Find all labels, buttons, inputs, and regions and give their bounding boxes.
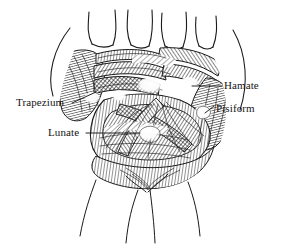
wrist-anatomy-drawing — [0, 0, 281, 245]
wrist-anatomy-figure: Trapezium Lunate Hamate Pisiform — [0, 0, 281, 245]
scaphoid-highlight — [112, 90, 126, 102]
label-lunate: Lunate — [48, 127, 79, 138]
capitate-highlight — [137, 78, 163, 94]
label-trapezium: Trapezium — [16, 97, 64, 108]
hamate-highlight — [179, 77, 199, 91]
label-hamate: Hamate — [224, 80, 259, 91]
label-pisiform: Pisiform — [216, 103, 255, 114]
